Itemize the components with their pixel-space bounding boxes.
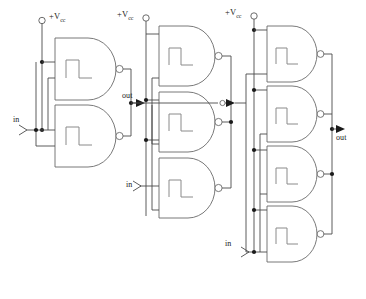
schmitt-trigger-icon xyxy=(276,168,298,184)
gate-input-lead xyxy=(152,78,159,105)
gate-input-lead xyxy=(152,105,159,144)
inverting-bubble xyxy=(317,231,324,238)
schmitt-trigger-icon xyxy=(276,108,298,124)
gate-input-lead xyxy=(152,105,159,210)
junction-dot xyxy=(229,120,233,124)
junction-dot xyxy=(252,148,256,152)
schmitt-trigger-icon xyxy=(169,48,193,65)
gate-input-lead xyxy=(36,92,55,146)
junction-dot xyxy=(144,138,148,142)
input-label-2: in xyxy=(126,181,132,189)
junction-dot xyxy=(144,98,148,102)
tap-bubble xyxy=(220,100,225,105)
schmitt-trigger-icon xyxy=(66,127,92,145)
junction-dot xyxy=(330,172,334,176)
vcc-label-2: +Vcc xyxy=(117,10,133,21)
schmitt-trigger-icon xyxy=(169,114,193,131)
vcc-terminal-1[interactable] xyxy=(39,17,45,23)
inverting-bubble xyxy=(317,51,324,58)
inverting-bubble xyxy=(215,118,222,125)
input-label-3: in xyxy=(225,240,231,248)
stage-3-group xyxy=(235,13,345,262)
inverting-bubble xyxy=(317,111,324,118)
interstage-arrow xyxy=(226,99,235,107)
inverting-bubble xyxy=(116,132,123,139)
nand-gate-body xyxy=(159,26,215,86)
gate-input-lead xyxy=(260,134,267,252)
inverting-bubble xyxy=(215,184,222,191)
schmitt-trigger-icon xyxy=(276,228,298,244)
nand-gate-body xyxy=(159,92,215,152)
nand-gate-body xyxy=(267,146,317,202)
final-output-label: out xyxy=(336,134,347,142)
circuit-schematic-svg xyxy=(0,0,366,299)
output-tie-wire xyxy=(324,54,332,234)
input-terminal-wedge-2[interactable] xyxy=(133,181,141,191)
input-label-1: in xyxy=(13,116,19,124)
schmitt-trigger-icon xyxy=(276,48,298,64)
vcc-label-1: +Vcc xyxy=(49,12,65,23)
nand-gate-body xyxy=(55,38,116,100)
inverting-bubble xyxy=(215,52,222,59)
inverting-bubble xyxy=(116,65,123,72)
input-terminal-wedge-1[interactable] xyxy=(19,125,27,135)
nand-gate-body xyxy=(55,105,116,167)
nand-gate-body xyxy=(267,26,317,82)
nand-gate-body xyxy=(267,206,317,262)
junction-dot xyxy=(34,128,38,132)
final-out-arrow xyxy=(336,125,345,133)
gate-input-lead xyxy=(48,78,55,92)
schmitt-trigger-icon xyxy=(169,180,193,197)
nand-gate-body xyxy=(267,86,317,142)
vcc-label-3: +Vcc xyxy=(225,8,241,19)
nand-gate-body xyxy=(159,158,215,218)
stage-2-group xyxy=(131,15,235,218)
inverting-bubble xyxy=(317,171,324,178)
junction-dot xyxy=(252,88,256,92)
junction-dot xyxy=(252,250,256,254)
vcc-terminal-2[interactable] xyxy=(143,15,149,21)
vcc-terminal-3[interactable] xyxy=(251,13,257,19)
schmitt-trigger-icon xyxy=(66,60,92,78)
circuit-diagram-canvas: +Vcc +Vcc +Vcc in out in in out xyxy=(0,0,366,299)
junction-dot xyxy=(252,208,256,212)
gate-input-lead xyxy=(246,74,267,252)
output-label-1: out xyxy=(122,92,133,100)
